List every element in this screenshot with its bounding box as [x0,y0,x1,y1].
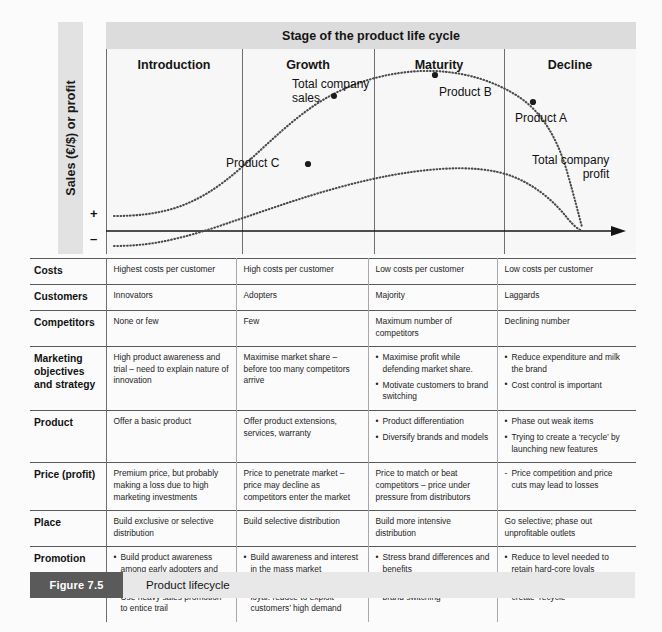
annotation-product-b: Product B [439,85,492,99]
table-cell: High costs per customer [236,259,368,285]
row-label-competitors: Competitors [30,311,106,347]
table-cell: Build exclusive or selective distributio… [106,511,236,547]
table-row: Price (profit)Premium price, but probabl… [30,463,636,511]
table-cell: Innovators [106,285,236,311]
cell-text: Go selective; phase out unprofitable out… [505,516,630,539]
chart-curves-svg [106,49,636,254]
list-item: Motivate customers to brand switching [376,380,490,403]
cell-text: Declining number [505,316,630,328]
cell-bullet-list: Reduce expenditure and milk the brandCos… [505,352,630,391]
cell-text: Offer product extensions, services, warr… [244,416,361,439]
table-cell: Offer a basic product [106,411,236,463]
chart-plot-area: Introduction Growth Maturity Decline [106,49,636,254]
table-cell: Price competition and price cuts may lea… [497,463,636,511]
list-item: Maximise profit while defending market s… [376,352,490,375]
figure-caption-title: Product lifecycle [123,572,230,598]
table-row: CustomersInnovatorsAdoptersMajorityLagga… [30,285,636,311]
list-item: Phase out weak items [505,416,630,428]
table-cell: Declining number [497,311,636,347]
table-cell: Highest costs per customer [106,259,236,285]
table-cell: Maximise market share – before too many … [236,347,368,411]
cell-text: Majority [376,290,490,302]
x-axis-arrowhead [611,226,626,236]
table-cell: Few [236,311,368,347]
cell-text: Price to match or beat competitors – pri… [376,468,490,503]
table-cell: Build more intensive distribution [368,511,497,547]
cell-bullet-list: Price competition and price cuts may lea… [505,468,630,491]
table-row: CostsHighest costs per customerHigh cost… [30,259,636,285]
chart-banner-title: Stage of the product life cycle [106,22,636,49]
cell-text: Few [244,316,361,328]
cell-text: Offer a basic product [114,416,229,428]
list-item: Diversify brands and models [376,432,490,444]
row-label-costs: Costs [30,259,106,285]
row-label-marketing-objectives-and-strategy: Marketing objectives and strategy [30,347,106,411]
list-item: Trying to create a ‘recycle’ by launchin… [505,432,630,455]
table-cell: Price to match or beat competitors – pri… [368,463,497,511]
cell-text: Premium price, but probably making a los… [114,468,229,503]
row-label-product: Product [30,411,106,463]
cell-text: Build more intensive distribution [376,516,490,539]
figure-number-tag: Figure 7.5 [30,572,123,598]
table-cell: Product differentiationDiversify brands … [368,411,497,463]
table-cell: Maximum number of competitors [368,311,497,347]
table-cell: Low costs per customer [368,259,497,285]
list-item: Cost control is important [505,380,630,392]
cell-text: Build selective distribution [244,516,361,528]
cell-text: Build exclusive or selective distributio… [114,516,229,539]
cell-text: Innovators [114,290,229,302]
table-cell: Low costs per customer [497,259,636,285]
axis-sign-minus: – [90,231,97,246]
cell-text: Highest costs per customer [114,264,229,276]
cell-text: None or few [114,316,229,328]
figure-page: Sales (€/$) or profit Stage of the produ… [0,0,662,632]
plc-table: CostsHighest costs per customerHigh cost… [30,258,636,622]
row-label-customers: Customers [30,285,106,311]
table-cell: Laggards [497,285,636,311]
row-label-place: Place [30,511,106,547]
table-cell: None or few [106,311,236,347]
product-lifecycle-chart: Sales (€/$) or profit Stage of the produ… [30,22,636,254]
table-row: ProductOffer a basic productOffer produc… [30,411,636,463]
y-axis-label: Sales (€/$) or profit [64,80,78,195]
cell-bullet-list: Product differentiationDiversify brands … [376,416,490,444]
cell-bullet-list: Maximise profit while defending market s… [376,352,490,403]
cell-text: Low costs per customer [376,264,490,276]
axis-sign-plus: + [90,206,98,221]
figure-caption-bar: Figure 7.5 Product lifecycle [30,572,635,598]
table-cell: Phase out weak itemsTrying to create a ‘… [497,411,636,463]
annotation-total-company-profit: Total company profit [532,153,609,181]
product-lifecycle-table: CostsHighest costs per customerHigh cost… [30,258,636,622]
table-row: PlaceBuild exclusive or selective distri… [30,511,636,547]
cell-text: High costs per customer [244,264,361,276]
table-cell: Offer product extensions, services, warr… [236,411,368,463]
cell-text: Maximise market share – before too many … [244,352,361,387]
cell-text: Maximum number of competitors [376,316,490,339]
table-cell: Price to penetrate market – price may de… [236,463,368,511]
annotation-product-a: Product A [515,111,567,125]
row-label-price-profit: Price (profit) [30,463,106,511]
annotation-product-c: Product C [226,156,279,170]
cell-text: Adopters [244,290,361,302]
total-company-profit-curve [114,168,582,246]
table-cell: Go selective; phase out unprofitable out… [497,511,636,547]
chart-banner-title-text: Stage of the product life cycle [282,29,460,43]
cell-bullet-list: Phase out weak itemsTrying to create a ‘… [505,416,630,455]
list-item: Reduce expenditure and milk the brand [505,352,630,375]
table-row: CompetitorsNone or fewFewMaximum number … [30,311,636,347]
table-cell: Maximise profit while defending market s… [368,347,497,411]
cell-text: Laggards [505,290,630,302]
cell-text: Low costs per customer [505,264,630,276]
table-cell: High product awareness and trial – need … [106,347,236,411]
table-cell: Reduce expenditure and milk the brandCos… [497,347,636,411]
table-cell: Premium price, but probably making a los… [106,463,236,511]
table-cell: Adopters [236,285,368,311]
table-cell: Build selective distribution [236,511,368,547]
table-row: Marketing objectives and strategyHigh pr… [30,347,636,411]
cell-text: Price to penetrate market – price may de… [244,468,361,503]
annotation-total-company-sales: Total company sales [292,77,369,105]
y-axis-label-strip: Sales (€/$) or profit [58,22,83,254]
list-item: Price competition and price cuts may lea… [505,468,630,491]
table-cell: Majority [368,285,497,311]
cell-text: High product awareness and trial – need … [114,352,229,387]
